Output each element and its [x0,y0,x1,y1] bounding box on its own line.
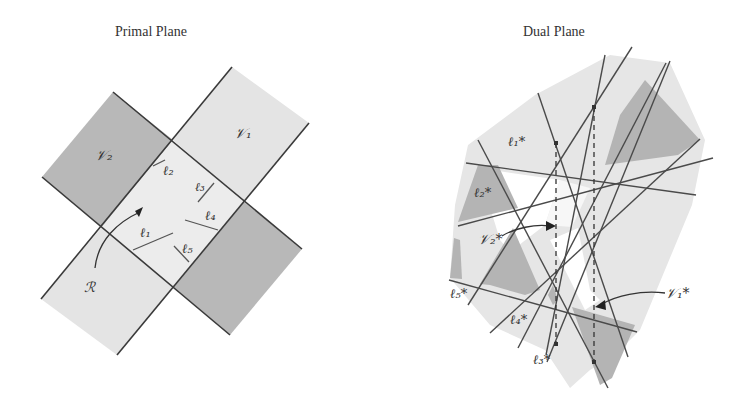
vertex-point [554,342,558,346]
vertex-point [592,105,596,109]
vertex-point [592,360,596,364]
label-l1-star: ℓ₁* [508,134,526,149]
label-v1-star: 𝒱₁* [665,285,690,301]
label-v2-star: 𝒱₂* [478,231,503,247]
label-l2-star: ℓ₂* [474,185,492,200]
dual-plane-diagram: ℓ₁* ℓ₂* ℓ₃* ℓ₄* ℓ₅* 𝒱₁* 𝒱₂* [0,0,752,404]
vertex-point [554,141,558,145]
label-l3-star: ℓ₃* [533,352,551,367]
label-l4-star: ℓ₄* [510,312,528,327]
label-l5-star: ℓ₅* [450,286,468,301]
